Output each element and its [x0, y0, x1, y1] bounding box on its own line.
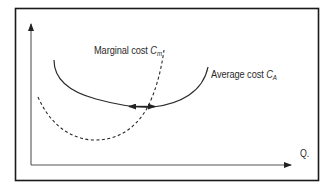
outer-frame	[16, 9, 319, 181]
marginal-cost-curve	[38, 50, 164, 140]
marginal-cost-label-text: Marginal cost	[94, 44, 150, 56]
cost-curves-diagram	[0, 0, 332, 191]
average-cost-curve	[54, 60, 208, 107]
marginal-cost-subscript: m	[157, 50, 162, 57]
average-cost-subscript: A	[273, 74, 277, 81]
average-cost-label: Average cost CA	[211, 68, 277, 81]
marginal-cost-label: Marginal cost Cm	[94, 44, 162, 57]
x-axis-label: Q.	[300, 148, 309, 159]
average-cost-label-text: Average cost	[211, 68, 266, 80]
